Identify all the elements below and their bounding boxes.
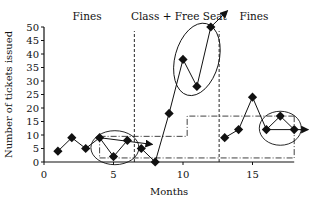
data-point-diamond: [192, 82, 201, 91]
data-point-diamond: [178, 55, 187, 64]
phase-label: Class + Free Seat: [131, 10, 228, 22]
y-tick-label: 15: [26, 116, 39, 127]
chart: 05101520253035404550051015MonthsNumber o…: [0, 0, 321, 202]
x-tick-label: 0: [41, 169, 47, 180]
y-tick-label: 35: [26, 62, 39, 73]
phase-label: Fines: [73, 10, 102, 22]
y-tick-label: 25: [26, 89, 39, 100]
y-tick-label: 40: [26, 49, 39, 60]
phase-label: Fines: [239, 10, 268, 22]
data-point-diamond: [165, 109, 174, 118]
x-tick-label: 5: [110, 169, 116, 180]
y-tick-label: 10: [26, 130, 39, 141]
y-tick-label: 30: [26, 76, 39, 87]
y-tick-label: 0: [33, 157, 39, 168]
x-tick-label: 15: [246, 169, 259, 180]
series-line: [141, 27, 211, 162]
y-axis-label: Number of tickets issued: [3, 30, 14, 158]
x-tick-label: 10: [177, 169, 190, 180]
y-tick-label: 50: [26, 22, 39, 33]
data-point-diamond: [95, 133, 104, 142]
data-point-diamond: [234, 125, 243, 134]
data-point-diamond: [248, 93, 257, 102]
y-tick-label: 45: [26, 35, 39, 46]
y-tick-label: 5: [33, 143, 39, 154]
y-tick-label: 20: [26, 103, 39, 114]
x-axis-label: Months: [150, 186, 188, 197]
data-point-diamond: [220, 133, 229, 142]
data-point-diamond: [81, 144, 90, 153]
